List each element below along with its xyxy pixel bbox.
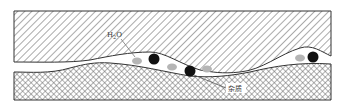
impurity-particle-icon (149, 54, 160, 65)
impurity-label: 杂质 (228, 84, 242, 93)
water-droplet-icon (202, 66, 212, 73)
water-droplet-icon (132, 58, 142, 65)
interface-diagram: H2O 杂质 (0, 0, 343, 109)
impurity-particle-icon (185, 66, 196, 77)
water-droplet-icon (295, 55, 305, 62)
impurity-particle-icon (308, 52, 319, 63)
water-droplet-icon (167, 64, 177, 71)
